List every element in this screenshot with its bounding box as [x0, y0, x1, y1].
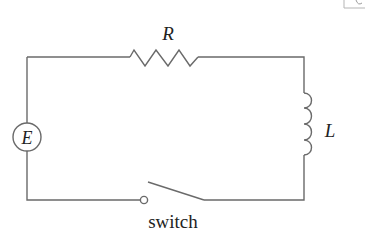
- switch-blade: [148, 182, 204, 200]
- corner-box-fragment: [344, 0, 365, 8]
- rl-circuit-diagram: E R L switch: [0, 0, 365, 251]
- wire-bottom-left: [27, 151, 140, 200]
- resistor-symbol: [130, 50, 198, 66]
- switch-label: switch: [148, 211, 198, 232]
- wire-right: [204, 155, 304, 200]
- inductor-symbol: [304, 93, 312, 155]
- switch-terminal: [140, 196, 147, 203]
- wire-top-right: [198, 57, 304, 93]
- source-label: E: [21, 128, 33, 148]
- inductor-label: L: [324, 120, 336, 141]
- resistor-label: R: [161, 23, 174, 44]
